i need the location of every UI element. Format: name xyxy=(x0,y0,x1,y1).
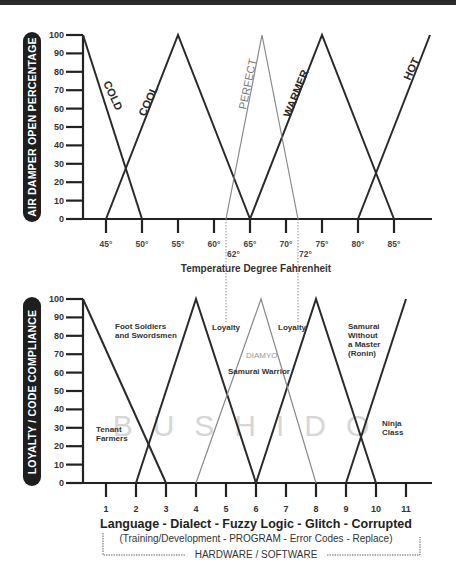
svg-text:70°: 70° xyxy=(280,239,293,249)
svg-text:10: 10 xyxy=(54,196,64,206)
top-y-tick-labels: 100 90 80 70 60 50 40 30 20 10 0 xyxy=(49,30,64,224)
top-x-ticks xyxy=(106,219,394,233)
svg-text:65°: 65° xyxy=(244,239,257,249)
svg-text:20: 20 xyxy=(54,441,64,451)
svg-text:85°: 85° xyxy=(388,239,401,249)
top-x-axis-label: Temperature Degree Fahrenheit xyxy=(181,263,332,274)
svg-text:45°: 45° xyxy=(100,239,113,249)
svg-text:0: 0 xyxy=(59,478,64,488)
svg-text:Samurai: Samurai xyxy=(348,322,380,331)
bottom-chart: BUSHIDO 100 90 80 70 60 50 40 30 20 1 xyxy=(49,294,432,560)
svg-text:62°: 62° xyxy=(227,249,240,259)
svg-text:7: 7 xyxy=(283,504,288,514)
svg-text:Without: Without xyxy=(348,331,378,340)
svg-text:90: 90 xyxy=(54,48,64,58)
svg-text:COOL: COOL xyxy=(136,84,160,118)
series-cold xyxy=(83,35,142,219)
svg-text:30: 30 xyxy=(54,423,64,433)
top-y-ticks xyxy=(66,35,83,219)
top-chart: 100 90 80 70 60 50 40 30 20 10 0 45° 50° xyxy=(49,30,432,274)
svg-text:80°: 80° xyxy=(352,239,365,249)
top-x-tick-labels: 45° 50° 55° 60° 65° 70° 75° 80° 85° xyxy=(100,239,401,249)
svg-text:72°: 72° xyxy=(299,249,312,259)
svg-text:60: 60 xyxy=(54,104,64,114)
svg-text:20: 20 xyxy=(54,177,64,187)
svg-text:90: 90 xyxy=(54,312,64,322)
svg-text:80: 80 xyxy=(54,331,64,341)
svg-text:Class: Class xyxy=(382,428,404,437)
svg-text:40: 40 xyxy=(54,404,64,414)
svg-text:100: 100 xyxy=(49,294,64,304)
bracket-label: HARDWARE / SOFTWARE xyxy=(195,549,318,560)
svg-text:WARMER: WARMER xyxy=(281,68,311,119)
svg-text:Farmers: Farmers xyxy=(96,434,128,443)
series-cool xyxy=(106,35,250,219)
svg-text:PERFECT: PERFECT xyxy=(236,57,258,110)
bottom-x-ticks xyxy=(106,483,406,497)
series-warmer xyxy=(250,35,394,219)
bottom-y-tick-labels: 100 90 80 70 60 50 40 30 20 10 0 xyxy=(49,294,64,488)
top-set-labels: COLD COOL PERFECT WARMER HOT xyxy=(101,55,422,118)
svg-text:11: 11 xyxy=(401,504,411,514)
svg-text:30: 30 xyxy=(54,159,64,169)
svg-text:70: 70 xyxy=(54,85,64,95)
svg-text:8: 8 xyxy=(313,504,318,514)
svg-text:Ninja: Ninja xyxy=(382,419,402,428)
svg-text:75°: 75° xyxy=(316,239,329,249)
svg-text:and Swordsmen: and Swordsmen xyxy=(115,331,177,340)
svg-text:80: 80 xyxy=(54,67,64,77)
svg-text:70: 70 xyxy=(54,349,64,359)
svg-text:100: 100 xyxy=(49,30,64,40)
bottom-y-ticks xyxy=(66,299,83,483)
svg-text:3: 3 xyxy=(163,504,168,514)
svg-text:50: 50 xyxy=(54,386,64,396)
svg-text:COLD: COLD xyxy=(101,79,125,112)
svg-text:DIAMYO: DIAMYO xyxy=(246,351,278,360)
series-perfect xyxy=(226,35,298,219)
svg-text:Tenant: Tenant xyxy=(96,425,122,434)
svg-text:5: 5 xyxy=(223,504,228,514)
bottom-x-axis-label: Language - Dialect - Fuzzy Logic - Glitc… xyxy=(100,517,412,531)
top-marker-labels: 62° 72° xyxy=(227,249,312,259)
bottom-x-axis-subtitle: (Training/Development - PROGRAM - Error … xyxy=(119,533,392,544)
svg-text:4: 4 xyxy=(193,504,198,514)
svg-text:55°: 55° xyxy=(172,239,185,249)
svg-text:Foot Soldiers: Foot Soldiers xyxy=(115,322,167,331)
svg-text:50°: 50° xyxy=(136,239,149,249)
svg-text:2: 2 xyxy=(133,504,138,514)
svg-text:HOT: HOT xyxy=(401,55,422,81)
svg-text:10: 10 xyxy=(54,460,64,470)
svg-text:40: 40 xyxy=(54,140,64,150)
svg-text:60: 60 xyxy=(54,368,64,378)
svg-text:(Ronin): (Ronin) xyxy=(348,349,376,358)
bottom-x-tick-labels: 1 2 3 4 5 6 7 8 9 10 11 xyxy=(103,504,410,514)
svg-text:60°: 60° xyxy=(208,239,221,249)
svg-text:50: 50 xyxy=(54,122,64,132)
svg-text:0: 0 xyxy=(59,214,64,224)
svg-text:Loyalty: Loyalty xyxy=(212,323,241,332)
svg-text:1: 1 xyxy=(103,504,108,514)
svg-text:Samurai Warrior: Samurai Warrior xyxy=(228,367,290,376)
charts-canvas: 100 90 80 70 60 50 40 30 20 10 0 45° 50° xyxy=(0,0,456,586)
svg-text:Loyalty: Loyalty xyxy=(278,323,307,332)
svg-text:10: 10 xyxy=(371,504,381,514)
svg-text:9: 9 xyxy=(343,504,348,514)
svg-text:a Master: a Master xyxy=(348,340,380,349)
svg-text:6: 6 xyxy=(253,504,258,514)
